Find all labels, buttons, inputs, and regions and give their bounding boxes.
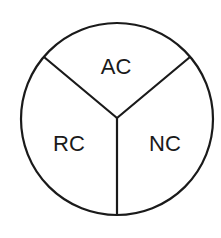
sector-label-rc: RC bbox=[53, 131, 85, 156]
three-sector-circle-diagram: AC RC NC bbox=[0, 0, 221, 238]
sector-label-ac: AC bbox=[101, 54, 132, 79]
diagram-canvas: AC RC NC bbox=[0, 0, 221, 238]
sector-label-nc: NC bbox=[149, 131, 181, 156]
